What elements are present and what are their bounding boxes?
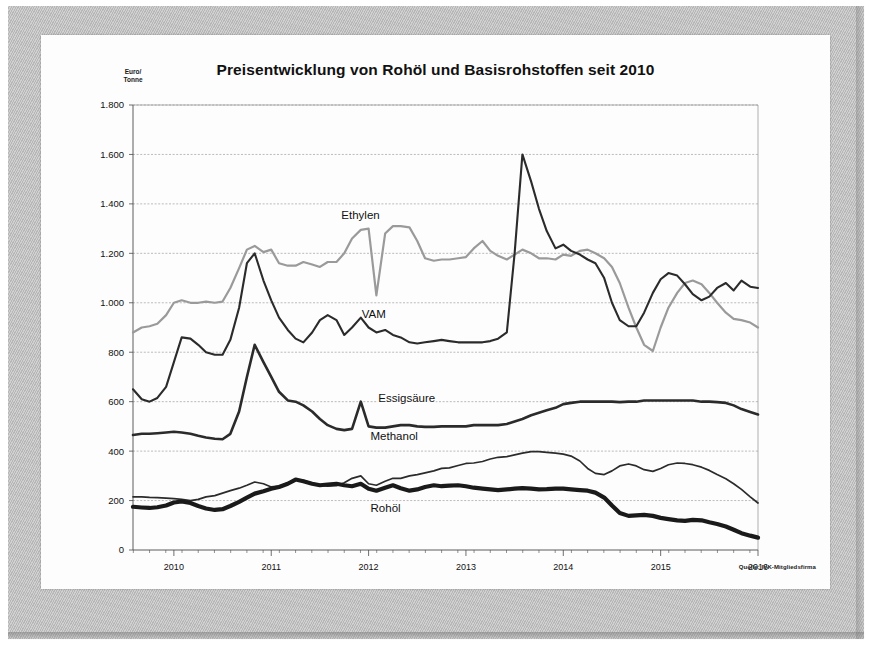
y-tick-label-1400: 1.400 (100, 198, 124, 209)
series-label-roh-l: Rohöl (371, 502, 401, 514)
series-label-ethylen: Ethylen (341, 209, 379, 221)
chart-plot-area: 02004006008001.0001.2001.4001.6001.800 2… (41, 35, 830, 589)
y-tick-label-600: 600 (108, 396, 124, 407)
series-line-ethylen (133, 226, 758, 351)
y-tick-label-1800: 1.800 (100, 99, 124, 110)
series-line-vam (133, 154, 758, 401)
x-tick-label-2011: 2011 (262, 562, 281, 572)
series-label-essigs-ure: Essigsäure (378, 392, 435, 404)
y-tick-label-800: 800 (108, 347, 124, 358)
series-line-methanol (133, 452, 758, 503)
axis-spines (133, 105, 758, 550)
axes-group (133, 105, 758, 550)
gridlines-group (133, 105, 758, 501)
mat-shadow-right (856, 6, 865, 639)
series-lines-group (133, 154, 758, 537)
x-tick-label-2010: 2010 (164, 562, 184, 572)
chart-figure: Preisentwicklung von Rohöl und Basisrohs… (41, 35, 830, 589)
tickmarks-group (129, 105, 758, 556)
x-tick-label-2014: 2014 (553, 562, 573, 572)
scanned-page-root: Preisentwicklung von Rohöl und Basisrohs… (0, 0, 872, 651)
series-labels-group: EthylenEthylenVAMVAMEssigsäureEssigsäure… (341, 209, 435, 514)
x-tick-label-2015: 2015 (651, 562, 671, 572)
y-tick-label-1000: 1.000 (100, 297, 124, 308)
y-tick-label-200: 200 (108, 495, 124, 506)
y-tick-label-1200: 1.200 (100, 248, 124, 259)
series-line-essigs-ure (133, 345, 758, 439)
y-tick-labels-group: 02004006008001.0001.2001.4001.6001.800 (100, 99, 124, 555)
mat-shadow-bottom (8, 632, 864, 640)
series-label-vam: VAM (362, 308, 386, 320)
y-tick-label-400: 400 (108, 446, 124, 457)
x-tick-labels-group: 2010201120122013201420152016 (164, 562, 768, 572)
white-page-sheet: Preisentwicklung von Rohöl und Basisrohs… (41, 35, 830, 589)
x-tick-label-2012: 2012 (359, 562, 379, 572)
series-label-methanol: Methanol (371, 430, 418, 442)
source-note: Quelle: IVK-Mitgliedsfirma (739, 564, 816, 570)
series-line-roh-l (133, 480, 758, 538)
x-tick-label-2013: 2013 (456, 562, 476, 572)
y-tick-label-1600: 1.600 (100, 149, 124, 160)
y-tick-label-0: 0 (119, 544, 124, 555)
